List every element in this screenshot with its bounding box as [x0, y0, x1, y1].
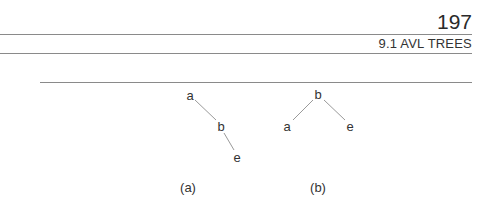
tree-b-node-a: a [283, 119, 290, 134]
avl-figure: a b e (a) b a e (b) [0, 0, 489, 206]
edge-b-e [224, 133, 234, 150]
tree-b-node-e: e [346, 119, 353, 134]
tree-edges [0, 0, 489, 206]
edge-b-a [293, 100, 313, 120]
tree-b-node-b: b [314, 87, 321, 102]
tree-a-node-e: e [233, 150, 240, 165]
tree-a-node-a: a [186, 88, 193, 103]
tree-a-node-b: b [217, 119, 224, 134]
tree-b-caption: (b) [310, 180, 326, 195]
tree-a-caption: (a) [180, 180, 196, 195]
edge-b-e [324, 100, 345, 120]
edge-a-b [195, 100, 216, 120]
